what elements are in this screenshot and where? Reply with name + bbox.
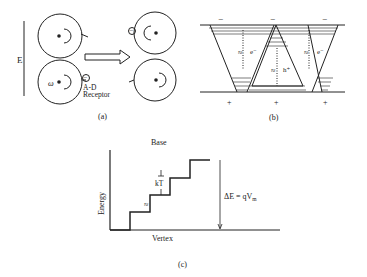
approx-mark: ≈ xyxy=(144,200,149,209)
carrier-label: e⁻ xyxy=(250,48,257,56)
panel-b xyxy=(200,25,345,92)
panel-b-label: (b) xyxy=(269,113,279,122)
bottom-label: Vertex xyxy=(152,234,173,243)
carrier-label: h⁺ xyxy=(283,66,291,74)
top-charge: − xyxy=(322,14,327,24)
bottom-charge: + xyxy=(323,98,328,107)
carrier-label: e⁻ xyxy=(317,48,324,56)
atom-rows xyxy=(209,28,338,90)
delta-label: ΔE = qVm xyxy=(224,192,257,202)
panel-c xyxy=(110,150,280,230)
svg-text:≈: ≈ xyxy=(238,48,243,57)
rotation-arc-icon xyxy=(64,75,71,89)
field-label: E xyxy=(17,55,23,65)
bottom-charge: + xyxy=(274,98,279,107)
rotation-arc-icon xyxy=(159,73,166,87)
panel-a-label: (a) xyxy=(98,112,107,121)
top-label: Base xyxy=(151,138,167,147)
bottom-charge: + xyxy=(227,98,232,107)
top-charge: − xyxy=(218,14,223,24)
energy-staircase xyxy=(110,160,210,230)
step-label: kT xyxy=(155,179,164,188)
y-axis-label: Energy xyxy=(97,192,106,215)
rotation-arc-icon xyxy=(64,29,71,43)
svg-text:≈: ≈ xyxy=(271,66,276,75)
charge-minus: − xyxy=(84,74,88,82)
omega-label: ω xyxy=(48,79,54,88)
rotation-arc-icon xyxy=(144,26,151,40)
charge-minus: − xyxy=(130,27,134,35)
receptor-label-2: Receptor xyxy=(83,90,111,99)
figure: − − E ω A-D Receptor (a) xyxy=(0,0,367,277)
top-charge: − xyxy=(270,14,275,24)
transition-arrow-icon xyxy=(85,50,130,64)
svg-text:≈: ≈ xyxy=(304,48,309,57)
panel-c-label: (c) xyxy=(178,260,187,269)
